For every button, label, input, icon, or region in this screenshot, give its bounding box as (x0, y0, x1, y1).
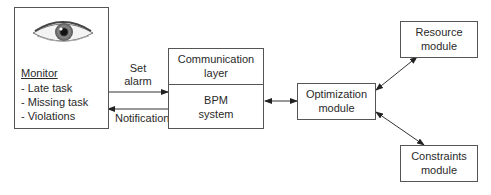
constraints-label-line1: Constraints (401, 150, 477, 163)
optimization-constraints-arrow (376, 112, 424, 145)
optimization-resource-arrow (376, 57, 417, 90)
set-alarm-label-line1: Set (118, 62, 158, 75)
bpm-block: Communication layer BPM system (168, 48, 264, 129)
resource-module-box: Resource module (400, 21, 478, 58)
constraints-module-box: Constraints module (400, 145, 478, 182)
monitor-title: Monitor (21, 67, 58, 80)
monitor-item-late-task: - Late task (21, 82, 72, 95)
optimization-label-line1: Optimization (298, 88, 375, 101)
monitor-item-violations: - Violations (21, 110, 75, 123)
optimization-module-box: Optimization module (297, 83, 376, 120)
monitor-item-missing-task: - Missing task (21, 96, 88, 109)
communication-layer-label-line2: layer (169, 67, 263, 80)
set-alarm-label-line2: alarm (118, 75, 158, 88)
eye-icon (31, 19, 95, 45)
communication-layer-section: Communication layer (169, 49, 263, 85)
communication-layer-label-line1: Communication (169, 53, 263, 66)
notification-label: Notification (115, 112, 169, 125)
optimization-label-line2: module (298, 102, 375, 115)
bpm-system-label-line2: system (169, 108, 263, 121)
bpm-system-label-line1: BPM (169, 94, 263, 107)
monitor-box: Monitor - Late task - Missing task - Vio… (14, 7, 109, 129)
constraints-label-line2: module (401, 164, 477, 177)
resource-label-line2: module (401, 40, 477, 53)
resource-label-line1: Resource (401, 26, 477, 39)
